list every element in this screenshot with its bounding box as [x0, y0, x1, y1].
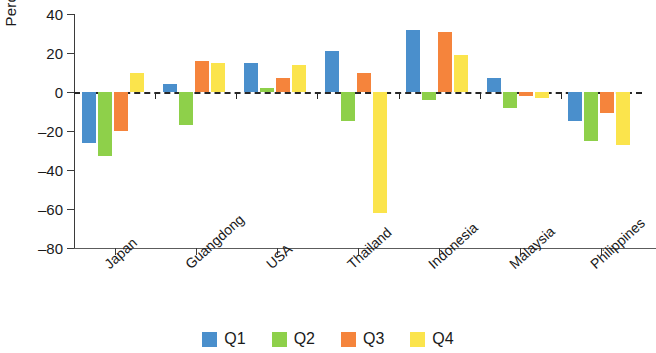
y-axis-tick	[67, 170, 74, 171]
y-axis-tick-label: –80	[38, 240, 63, 257]
y-axis-tick	[67, 248, 74, 249]
legend-item-q1[interactable]: Q1	[202, 330, 245, 348]
bar-japan-q3	[114, 92, 128, 131]
bar-indonesia-q1	[406, 30, 420, 92]
bar-guangdong-q2	[179, 92, 193, 125]
x-axis-tick	[561, 92, 562, 99]
y-axis-tick-label: –20	[38, 123, 63, 140]
y-axis-tick-label: 40	[46, 6, 63, 23]
bar-japan-q2	[98, 92, 112, 156]
bar-malaysia-q1	[487, 78, 501, 92]
bar-indonesia-q2	[422, 92, 436, 100]
bar-usa-q2	[260, 88, 274, 92]
bar-thailand-q4	[373, 92, 387, 213]
bar-philippines-q4	[616, 92, 630, 145]
bar-japan-q4	[130, 73, 144, 93]
bar-malaysia-q3	[519, 92, 533, 96]
x-axis-labels: JapanGuangdongUSAThailandIndonesiaMalays…	[74, 250, 642, 310]
bar-usa-q3	[276, 78, 290, 92]
legend-swatch-icon	[341, 332, 356, 347]
bar-philippines-q3	[600, 92, 614, 113]
legend-label: Q2	[294, 330, 315, 348]
y-axis-tick-label: –40	[38, 162, 63, 179]
x-axis-tick	[480, 92, 481, 99]
y-axis-tick	[67, 92, 74, 93]
y-axis-title: Percent	[2, 0, 19, 60]
x-axis-tick	[236, 92, 237, 99]
legend-label: Q1	[224, 330, 245, 348]
legend-label: Q4	[432, 330, 453, 348]
chart-legend: Q1Q2Q3Q4	[0, 330, 656, 348]
y-axis-tick-label: 0	[55, 84, 63, 101]
x-axis-tick	[155, 92, 156, 99]
legend-swatch-icon	[272, 332, 287, 347]
legend-label: Q3	[363, 330, 384, 348]
bar-thailand-q1	[325, 51, 339, 92]
legend-item-q2[interactable]: Q2	[272, 330, 315, 348]
x-axis-tick	[317, 92, 318, 99]
bar-usa-q4	[292, 65, 306, 92]
legend-item-q4[interactable]: Q4	[410, 330, 453, 348]
bar-indonesia-q4	[454, 55, 468, 92]
y-axis-tick-label: –60	[38, 201, 63, 218]
legend-swatch-icon	[410, 332, 425, 347]
x-axis-tick	[399, 92, 400, 99]
y-axis-tick	[67, 131, 74, 132]
y-axis-tick	[67, 14, 74, 15]
y-axis-tick	[67, 53, 74, 54]
bar-thailand-q2	[341, 92, 355, 121]
bar-chart: Percent 40200–20–40–60–80 JapanGuangdong…	[0, 0, 656, 353]
legend-item-q3[interactable]: Q3	[341, 330, 384, 348]
bar-malaysia-q2	[503, 92, 517, 108]
bar-indonesia-q3	[438, 32, 452, 92]
bar-thailand-q3	[357, 73, 371, 93]
bar-philippines-q1	[568, 92, 582, 121]
bar-guangdong-q1	[163, 84, 177, 92]
bar-usa-q1	[244, 63, 258, 92]
bar-guangdong-q3	[195, 61, 209, 92]
y-axis-tick	[67, 209, 74, 210]
bar-guangdong-q4	[211, 63, 225, 92]
y-axis-tick-label: 20	[46, 45, 63, 62]
bar-philippines-q2	[584, 92, 598, 141]
plot-area: 40200–20–40–60–80	[74, 14, 642, 248]
zero-line	[74, 92, 642, 94]
bar-japan-q1	[82, 92, 96, 143]
bar-malaysia-q4	[535, 92, 549, 98]
legend-swatch-icon	[202, 332, 217, 347]
